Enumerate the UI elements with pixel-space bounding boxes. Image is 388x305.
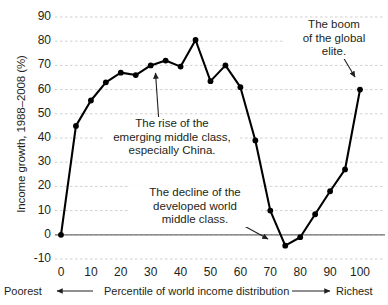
- data-point: [58, 232, 64, 238]
- data-point: [342, 167, 348, 173]
- y-tick-label: -10: [25, 251, 51, 265]
- x-tick-label: 40: [166, 265, 196, 279]
- y-tick-label: 80: [25, 33, 51, 47]
- x-tick-label: 10: [76, 265, 106, 279]
- x-tick-label: 0: [46, 265, 76, 279]
- data-point: [103, 79, 109, 85]
- x-tick-label: 50: [196, 265, 226, 279]
- annotation-emerging-middle-class: The rise of the emerging middle class, e…: [104, 117, 240, 158]
- data-point: [178, 64, 184, 70]
- y-tick-label: 60: [25, 82, 51, 96]
- data-point: [208, 78, 214, 84]
- data-point: [223, 63, 229, 69]
- data-point: [118, 70, 124, 76]
- data-point: [148, 63, 154, 69]
- y-tick-label: 10: [25, 203, 51, 217]
- y-tick-label: 50: [25, 106, 51, 120]
- x-tick-label: 60: [225, 265, 255, 279]
- y-tick-label: 70: [25, 57, 51, 71]
- x-tick-label: 70: [255, 265, 285, 279]
- x-tick-label: 80: [285, 265, 315, 279]
- x-tick-label: 20: [106, 265, 136, 279]
- data-point: [267, 208, 273, 214]
- data-point: [238, 84, 244, 90]
- data-point: [73, 123, 79, 129]
- x-tick-label: 100: [345, 265, 375, 279]
- data-point: [327, 188, 333, 194]
- data-point: [193, 37, 199, 43]
- data-point: [133, 72, 139, 78]
- annotation-arrow-elite: [343, 57, 355, 77]
- y-tick-label: 40: [25, 130, 51, 144]
- data-point: [357, 87, 363, 93]
- elephant-chart: Income growth, 1988–2008 (%) 90807060504…: [0, 0, 388, 305]
- annotation-global-elite: The boom of the global elite.: [285, 18, 383, 59]
- x-axis-richest-label: Richest: [336, 285, 373, 297]
- x-axis-title: Percentile of world income distribution: [104, 285, 289, 297]
- data-point: [88, 98, 94, 104]
- x-tick-label: 90: [315, 265, 345, 279]
- y-tick-label: 0: [25, 227, 51, 241]
- data-point: [297, 234, 303, 240]
- data-point: [252, 138, 258, 144]
- y-tick-label: 30: [25, 154, 51, 168]
- annotation-developed-middle-class: The decline of the developed world middl…: [129, 186, 261, 227]
- y-tick-label: 90: [25, 9, 51, 23]
- data-point: [312, 211, 318, 217]
- data-point: [282, 243, 288, 249]
- x-axis-poorest-label: Poorest: [4, 285, 42, 297]
- y-tick-label: 20: [25, 178, 51, 192]
- x-tick-label: 30: [136, 265, 166, 279]
- data-point: [163, 58, 169, 64]
